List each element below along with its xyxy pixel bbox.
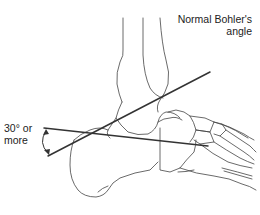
metatarsal-1 <box>214 122 254 140</box>
calcaneus-outline <box>70 140 158 197</box>
angle-annotation-line-2: more <box>4 135 44 147</box>
sole-line <box>180 168 256 190</box>
diagram-title: Normal Bohler's angle <box>132 14 252 37</box>
cuboid-outline <box>160 128 196 172</box>
cuneiform-1 <box>190 116 214 132</box>
metatarsal-5a <box>200 144 252 168</box>
angle-annotation: 30° or more <box>4 123 44 146</box>
navicular-outline <box>168 110 196 142</box>
bohler-angle-diagram: Normal Bohler's angle 30° or more <box>0 0 260 215</box>
angle-annotation-line-1: 30° or <box>4 123 44 135</box>
cuneiform-2 <box>194 130 214 144</box>
talus-head <box>158 117 182 122</box>
title-line-2: angle <box>132 26 252 38</box>
cuneiform-3 <box>214 122 226 136</box>
arc-arrow-bottom <box>44 149 50 155</box>
title-line-1: Normal Bohler's <box>132 14 252 26</box>
talus-outline <box>116 102 180 135</box>
tibia-outline <box>117 18 123 102</box>
calcaneus-tuber <box>98 186 108 192</box>
